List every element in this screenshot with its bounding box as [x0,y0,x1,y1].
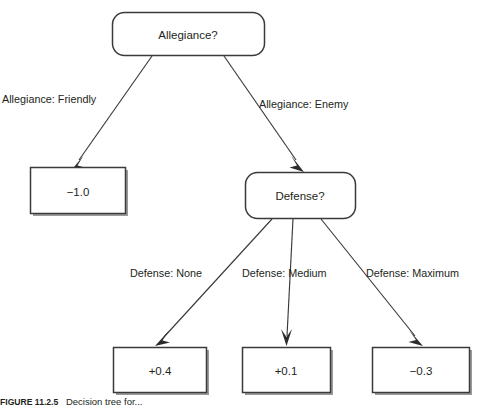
figure-caption-line: FIGURE 11.2.5 Decision tree for... [0,396,142,407]
leaf-defense-medium-label: +0.1 [275,365,298,377]
leaf-defense-maximum-label: −0.3 [410,365,433,377]
leaf-defense-maximum[interactable]: −0.3 [373,348,473,396]
figure-container: Allegiance? Defense? −1.0 +0.4 +0.1 [0,0,486,408]
node-defense-label: Defense? [275,190,324,202]
leaf-defense-none[interactable]: +0.4 [114,348,210,396]
figure-caption-body: Decision tree for... [66,396,143,407]
edge-label-defense-medium: Defense: Medium [242,267,327,279]
node-allegiance-label: Allegiance? [158,29,217,41]
edge-label-allegiance-friendly: Allegiance: Friendly [2,93,97,105]
edge-label-defense-none: Defense: None [130,267,202,279]
arrowhead-defense-medium-icon [281,329,292,346]
edge-allegiance-friendly-line [79,56,152,160]
arrowhead-defense-maximum-icon [409,330,424,346]
edge-label-defense-maximum: Defense: Maximum [366,267,459,279]
node-allegiance[interactable]: Allegiance? [113,13,265,56]
leaf-defense-medium[interactable]: +0.1 [243,348,334,396]
decision-tree-diagram: Allegiance? Defense? −1.0 +0.4 +0.1 [0,0,486,408]
leaf-defense-none-label: +0.4 [149,365,172,377]
arrowhead-allegiance-enemy-icon [290,156,305,173]
node-defense[interactable]: Defense? [246,173,356,219]
figure-caption: FIGURE 11.2.5 Decision tree for... [0,396,142,407]
leaf-friendly-label: −1.0 [67,186,90,198]
leaf-friendly[interactable]: −1.0 [31,168,129,217]
figure-caption-label: FIGURE 11.2.5 [0,397,58,407]
edge-label-allegiance-enemy: Allegiance: Enemy [259,98,349,110]
